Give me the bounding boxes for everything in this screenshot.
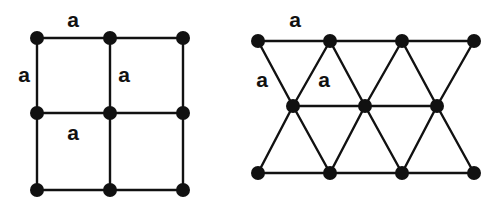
square-node <box>103 31 117 45</box>
lattice-canvas: aaaa aaa <box>0 0 500 216</box>
triangular-edge <box>402 41 437 106</box>
triangular-edge <box>437 41 474 106</box>
square-node <box>30 183 44 197</box>
triangular-edge <box>293 106 330 173</box>
triangular-lattice-labels: aaa <box>256 8 330 91</box>
lattice-figure: aaaa aaa <box>0 0 500 216</box>
triangular-edge <box>330 41 365 106</box>
triangular-node <box>323 34 337 48</box>
triangular-node <box>467 34 481 48</box>
square-node <box>176 31 190 45</box>
square-node <box>103 183 117 197</box>
triangular-node <box>467 166 481 180</box>
triangular-node <box>430 99 444 113</box>
square-lattice-constant-label: a <box>118 63 130 86</box>
triangular-edge <box>365 106 402 173</box>
triangular-edge <box>330 106 365 173</box>
triangular-node <box>286 99 300 113</box>
triangular-node <box>358 99 372 113</box>
square-lattice-constant-label: a <box>67 121 79 144</box>
triangular-node <box>251 34 265 48</box>
triangular-edge <box>402 106 437 173</box>
square-lattice-constant-label: a <box>67 8 79 31</box>
triangular-node <box>251 166 265 180</box>
triangular-node <box>323 166 337 180</box>
triangular-lattice-constant-label: a <box>318 68 330 91</box>
square-node <box>103 106 117 120</box>
triangular-lattice-nodes <box>251 34 481 180</box>
square-node <box>30 31 44 45</box>
triangular-node <box>395 166 409 180</box>
triangular-lattice-constant-label: a <box>289 8 301 31</box>
square-node <box>176 183 190 197</box>
triangular-lattice-constant-label: a <box>256 68 268 91</box>
triangular-node <box>395 34 409 48</box>
square-lattice-labels: aaaa <box>18 8 130 144</box>
square-node <box>30 106 44 120</box>
triangular-edge <box>437 106 474 173</box>
square-lattice-constant-label: a <box>18 63 30 86</box>
square-lattice-group: aaaa <box>18 8 190 197</box>
triangular-lattice-group: aaa <box>251 8 481 180</box>
triangular-edge <box>365 41 402 106</box>
triangular-edge <box>258 106 293 173</box>
square-node <box>176 106 190 120</box>
